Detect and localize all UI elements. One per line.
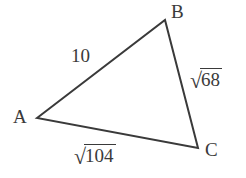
radicand-ac: 104 — [84, 144, 116, 165]
radical-expression-ac: √104 — [74, 144, 116, 166]
vertex-label-b: B — [171, 2, 184, 21]
vertex-label-c: C — [205, 140, 218, 159]
triangle-shape — [37, 20, 198, 148]
radical-expression-bc: √68 — [190, 68, 222, 90]
side-length-label-ac: √104 — [74, 144, 116, 166]
radicand-bc: 68 — [200, 68, 222, 89]
vertex-label-a: A — [13, 107, 27, 126]
side-length-label-ab: 10 — [71, 46, 90, 66]
side-length-label-bc: √68 — [190, 68, 222, 90]
triangle-figure: A B C 10 √68 √104 — [0, 0, 246, 178]
